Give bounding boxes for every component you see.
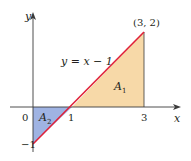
line-equation-label: y = x − 1 [60, 55, 113, 68]
point-label: (3, 2) [133, 17, 160, 28]
area-diagram: y x (3, 2) y = x − 1 0 1 3 −1 A1 A2 [0, 0, 191, 161]
tick-label-x3: 3 [141, 112, 147, 123]
y-axis-label: y [24, 10, 32, 23]
tick-label-x1: 1 [68, 112, 74, 123]
x-axis-label: x [174, 112, 181, 125]
origin-label: 0 [22, 112, 28, 123]
tick-label-ym1: −1 [21, 139, 36, 150]
